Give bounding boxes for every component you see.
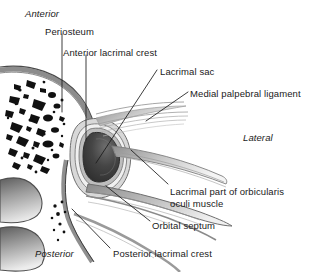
label-anterior-lacrimal-crest: Anterior lacrimal crest bbox=[63, 47, 157, 59]
label-orbital-septum: Orbital septum bbox=[152, 220, 215, 232]
orientation-label-lateral: Lateral bbox=[243, 132, 273, 144]
nasal-turbinate-upper bbox=[0, 178, 42, 223]
anatomical-figure: Anterior Lateral Posterior Periosteum An… bbox=[0, 0, 326, 272]
label-medial-palpebral-ligament: Medial palpebral ligament bbox=[190, 88, 301, 100]
label-lacrimal-sac: Lacrimal sac bbox=[160, 66, 214, 78]
orientation-label-anterior: Anterior bbox=[25, 8, 59, 20]
label-periosteum: Periosteum bbox=[45, 26, 94, 38]
label-posterior-lacrimal-crest: Posterior lacrimal crest bbox=[113, 248, 212, 260]
orientation-label-posterior: Posterior bbox=[35, 248, 74, 260]
label-lacrimal-part-orbicularis-line1: Lacrimal part of orbicularis bbox=[170, 186, 284, 198]
label-lacrimal-part-orbicularis: Lacrimal part of orbicularis oculi muscl… bbox=[170, 186, 284, 209]
label-lacrimal-part-orbicularis-line2: oculi muscle bbox=[170, 198, 284, 210]
